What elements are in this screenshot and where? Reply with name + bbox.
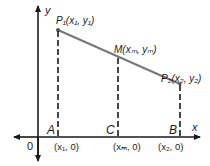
foot-b-coord: (x₂, 0) [158,141,183,152]
foot-b-label: B [169,123,177,137]
foot-a-label: A [46,123,55,137]
midpoint-diagram: y x 0 P₁(x₁, y₁) M(xₘ, yₘ) P₂(x₂, y₂) A … [0,0,210,166]
foot-a-coord: (x₁, 0) [54,141,79,152]
foot-c-label: C [106,123,115,137]
y-axis-label: y [44,4,52,16]
point-m-label: M(xₘ, yₘ) [114,44,157,55]
point-p1-label: P₁(x₁, y₁) [56,15,94,26]
x-axis-label: x [191,121,198,133]
origin-label: 0 [27,140,33,152]
point-p2-label: P₂(x₂, y₂) [161,73,201,84]
foot-c-coord: (xₘ, 0) [113,141,141,152]
